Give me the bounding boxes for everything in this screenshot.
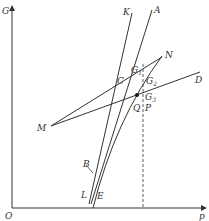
label-M: M [36,123,47,133]
label-C: C [117,76,124,86]
diagram-svg: G p O K A L E M N D C B G1 G2 G3 Q P [0,0,209,221]
curve-K [89,13,132,204]
label-N: N [164,50,174,60]
label-P: P [144,103,152,113]
x-axis-label: p [199,211,205,221]
y-axis-label: G [2,6,9,16]
diagram: G p O K A L E M N D C B G1 G2 G3 Q P [0,0,209,221]
label-A: A [153,5,161,15]
label-G2: G2 [146,76,157,87]
origin-label: O [5,211,13,221]
label-G3: G3 [145,92,156,103]
label-K: K [122,7,131,17]
label-D: D [194,75,202,85]
label-G1: G1 [131,65,142,76]
intersection-point [135,93,139,97]
label-B: B [82,159,90,169]
label-E: E [96,191,104,201]
label-L: L [80,190,87,200]
label-Q: Q [133,103,141,113]
